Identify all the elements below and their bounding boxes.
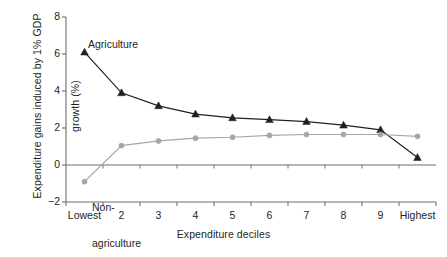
- y-axis-title-line1: Expenditure gains induced by 1% GDP: [31, 6, 44, 206]
- chart-figure: Expenditure gains induced by 1% GDP grow…: [0, 0, 447, 257]
- y-tick-label: 6: [30, 47, 60, 59]
- series-line-non-agriculture: [85, 134, 418, 181]
- data-point-marker: [414, 154, 422, 161]
- x-tick-label: 8: [341, 209, 347, 221]
- x-axis-title: Expenditure deciles: [0, 228, 447, 241]
- y-tick-label: −2: [30, 195, 60, 207]
- data-point-marker: [341, 132, 346, 137]
- series-label-non-agriculture-line2: agriculture: [92, 237, 141, 249]
- data-point-marker: [267, 133, 272, 138]
- data-point-marker: [304, 132, 309, 137]
- y-axis-title-line2: growth (%): [69, 6, 82, 206]
- x-tick-label: 9: [378, 209, 384, 221]
- y-tick-label: 8: [30, 10, 60, 22]
- series-line-agriculture: [85, 52, 418, 157]
- x-tick-label: Highest: [400, 209, 436, 221]
- y-tick-label: 0: [30, 158, 60, 170]
- x-tick-label: 7: [304, 209, 310, 221]
- x-tick-label: 4: [193, 209, 199, 221]
- y-axis-title: Expenditure gains induced by 1% GDP grow…: [6, 6, 106, 206]
- data-point-marker: [119, 143, 124, 148]
- x-tick-label: 5: [230, 209, 236, 221]
- data-point-marker: [156, 138, 161, 143]
- series-label-agriculture: Agriculture: [88, 38, 138, 50]
- y-tick-label: 4: [30, 84, 60, 96]
- y-tick-label: 2: [30, 121, 60, 133]
- data-point-marker: [193, 136, 198, 141]
- x-tick-label: 2: [119, 209, 125, 221]
- x-tick-label: 6: [267, 209, 273, 221]
- data-point-marker: [378, 132, 383, 137]
- chart-series: [81, 48, 422, 184]
- data-point-marker: [230, 135, 235, 140]
- x-tick-label: Lowest: [68, 209, 101, 221]
- x-tick-label: 3: [156, 209, 162, 221]
- data-point-marker: [415, 134, 420, 139]
